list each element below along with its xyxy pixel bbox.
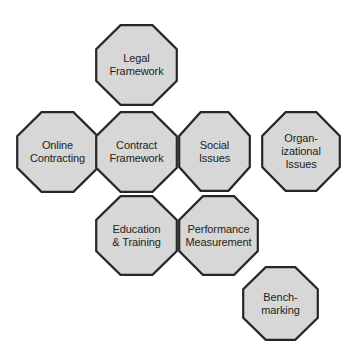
node-performance-measurement[interactable]: Performance Measurement <box>178 195 259 276</box>
node-label: Organ- izational Issues <box>281 132 320 171</box>
node-label: Legal Framework <box>109 52 163 78</box>
node-label: Online Contracting <box>30 139 85 165</box>
node-online-contracting[interactable]: Online Contracting <box>16 111 99 193</box>
node-label: Bench- marking <box>261 291 299 317</box>
node-legal-framework[interactable]: Legal Framework <box>95 24 178 106</box>
node-organizational-issues[interactable]: Organ- izational Issues <box>261 111 341 192</box>
node-label: Contract Framework <box>109 139 163 165</box>
diagram-canvas: Legal FrameworkOnline ContractingContrac… <box>0 0 357 348</box>
node-contract-framework[interactable]: Contract Framework <box>95 111 178 193</box>
node-social-issues[interactable]: Social Issues <box>178 111 251 192</box>
node-label: Social Issues <box>199 139 230 165</box>
node-education-training[interactable]: Education & Training <box>95 195 178 276</box>
node-benchmarking[interactable]: Bench- marking <box>242 266 319 341</box>
node-label: Education & Training <box>112 223 161 249</box>
node-label: Performance Measurement <box>185 223 251 249</box>
